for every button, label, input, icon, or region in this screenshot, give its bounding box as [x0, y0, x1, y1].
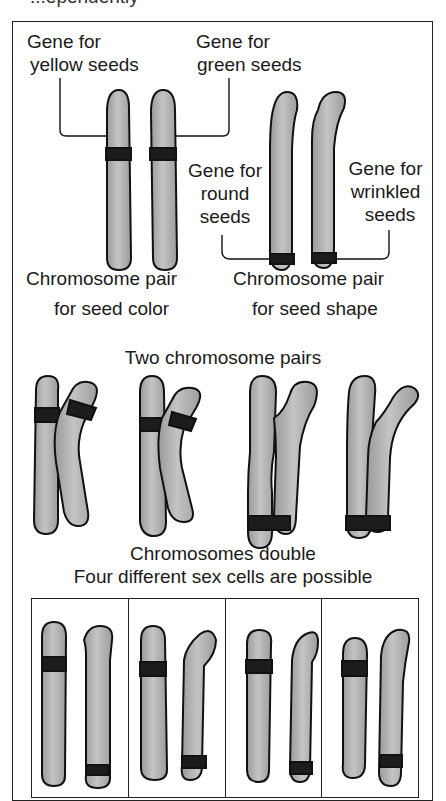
chromosome-shape-2	[312, 92, 345, 268]
sex-cell-chromosomes-2	[140, 626, 216, 780]
chromosome-pair-mid-1	[34, 376, 97, 534]
chromosome-shape-1	[270, 92, 297, 270]
sex-cell-chromosomes-1	[42, 622, 112, 788]
sex-cell-chromosomes-3	[246, 630, 318, 782]
chromosome-color-2	[150, 90, 177, 270]
chromosome-pair-mid-4	[346, 376, 418, 538]
chromosome-color-1	[106, 90, 131, 270]
chromosome-pair-mid-3	[248, 376, 317, 548]
sex-cell-chromosomes-4	[342, 630, 409, 786]
chromosome-pair-mid-2	[140, 376, 200, 536]
